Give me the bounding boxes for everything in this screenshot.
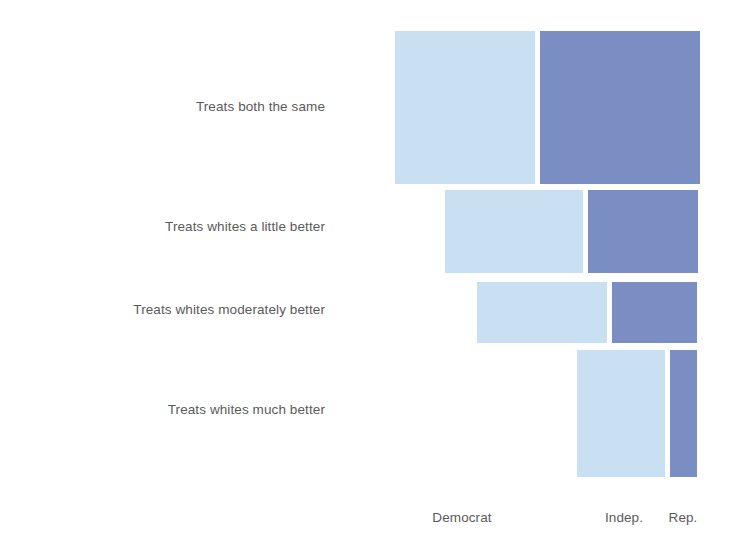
mosaic-row-treats-both-the-same (395, 31, 700, 184)
row-label-treats-whites-much-better: Treats whites much better (25, 403, 325, 417)
axis-label-rep: Rep. (653, 511, 713, 525)
mosaic-tile-indep-rep-row-0[interactable] (540, 31, 700, 184)
axis-label-indep: Indep. (584, 511, 664, 525)
mosaic-row-treats-whites-much-better (577, 350, 697, 477)
axis-label-democrat: Democrat (402, 511, 522, 525)
mosaic-tile-indep-rep-row-3[interactable] (670, 350, 697, 477)
mosaic-tile-democrat-row-1[interactable] (445, 190, 583, 273)
row-label-treats-whites-a-little-better: Treats whites a little better (25, 220, 325, 234)
mosaic-tile-democrat-row-2[interactable] (477, 282, 607, 343)
mosaic-chart: Treats both the same Treats whites a lit… (0, 0, 740, 559)
mosaic-tile-democrat-row-3[interactable] (577, 350, 665, 477)
mosaic-tile-indep-rep-row-1[interactable] (588, 190, 698, 273)
mosaic-tile-democrat-row-0[interactable] (395, 31, 535, 184)
mosaic-tile-indep-rep-row-2[interactable] (612, 282, 697, 343)
mosaic-row-treats-whites-a-little-better (445, 190, 698, 273)
mosaic-row-treats-whites-moderately-better (477, 282, 697, 343)
row-label-treats-both-the-same: Treats both the same (25, 100, 325, 114)
row-label-treats-whites-moderately-better: Treats whites moderately better (25, 303, 325, 317)
